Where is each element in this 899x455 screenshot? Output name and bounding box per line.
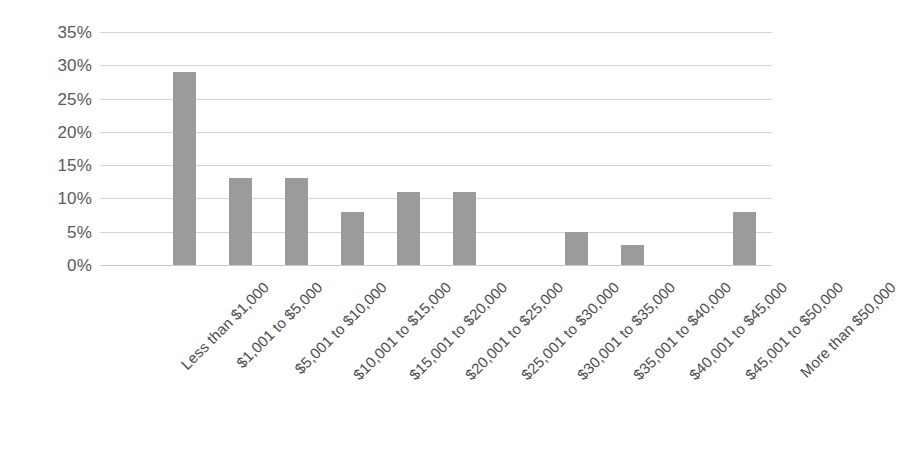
y-tick-label: 10% xyxy=(22,190,92,207)
y-axis: 0%5%10%15%20%25%30%35% xyxy=(18,32,92,265)
bar[interactable] xyxy=(565,232,588,265)
bar[interactable] xyxy=(733,212,756,265)
bar[interactable] xyxy=(229,178,252,265)
x-tick-label: $20,001 to $25,000 xyxy=(462,279,565,382)
bar[interactable] xyxy=(453,192,476,265)
bar[interactable] xyxy=(341,212,364,265)
y-tick-label: 0% xyxy=(22,257,92,274)
x-tick-label: $30,001 to $35,000 xyxy=(574,279,677,382)
x-tick-label: $15,001 to $20,000 xyxy=(406,279,509,382)
x-axis-labels: Less than $1,000$1,001 to $5,000$5,001 t… xyxy=(100,265,772,455)
x-tick-label: More than $50,000 xyxy=(797,279,898,380)
y-tick-label: 5% xyxy=(22,223,92,240)
bar[interactable] xyxy=(397,192,420,265)
x-tick-label: $40,001 to $45,000 xyxy=(686,279,789,382)
bar[interactable] xyxy=(285,178,308,265)
bar[interactable] xyxy=(173,72,196,265)
x-tick-label: $35,001 to $40,000 xyxy=(630,279,733,382)
y-tick-label: 30% xyxy=(22,57,92,74)
y-tick-label: 20% xyxy=(22,123,92,140)
y-tick-label: 15% xyxy=(22,157,92,174)
y-tick-label: 25% xyxy=(22,90,92,107)
bar[interactable] xyxy=(621,245,644,265)
y-tick-label: 35% xyxy=(22,24,92,41)
x-tick-label: $25,001 to $30,000 xyxy=(518,279,621,382)
bars-layer xyxy=(100,32,772,265)
x-tick-label: $45,001 to $50,000 xyxy=(742,279,845,382)
